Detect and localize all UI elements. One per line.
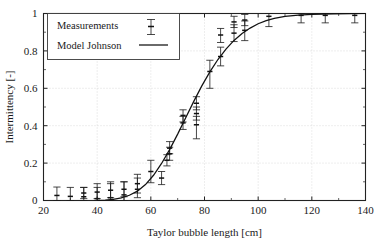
measurement-point [217,28,224,42]
measurement-point [179,110,186,122]
y-axis-title: Intermittency [-] [3,71,15,144]
x-tick-label: 140 [357,204,374,216]
y-tick-label: 1 [32,7,38,19]
figure-container: 20406080100120140 00.20.40.60.81 Taylor … [0,0,389,243]
measurement-point [241,14,248,25]
measurement-point [147,160,154,182]
measurement-point [158,172,165,185]
y-tick-label: 0.8 [24,45,38,57]
measurement-point [206,60,213,88]
x-axis-title: Taylor bubble length [cm] [147,226,262,238]
x-tick-label: 100 [250,204,267,216]
measurement-point [67,187,74,200]
measurement-point [53,187,60,200]
measurement-point [230,16,237,27]
y-tick-label: 0 [32,194,38,206]
x-tick-label: 120 [304,204,321,216]
measurement-point [193,97,200,110]
legend[interactable]: Measurements Model Johnson [48,14,180,60]
y-tick-label: 0.6 [24,82,38,94]
y-tick-labels: 00.20.40.60.81 [24,7,38,206]
measurement-point [166,142,173,154]
x-tick-label: 60 [145,204,157,216]
measurement-point [351,14,358,23]
measurement-point [134,174,141,193]
measurement-point [322,14,329,23]
x-tick-label: 80 [199,204,211,216]
measurement-point [94,184,101,199]
y-tick-label: 0.4 [24,120,38,132]
x-tick-label: 20 [38,204,50,216]
legend-label-model-johnson: Model Johnson [57,40,122,51]
x-tick-labels: 20406080100120140 [38,204,374,216]
measurement-point [107,182,114,198]
legend-label-measurements: Measurements [57,20,118,31]
x-tick-label: 40 [92,204,104,216]
intermittency-vs-bubble-length-chart: 20406080100120140 00.20.40.60.81 Taylor … [0,0,389,243]
y-tick-label: 0.2 [24,157,38,169]
